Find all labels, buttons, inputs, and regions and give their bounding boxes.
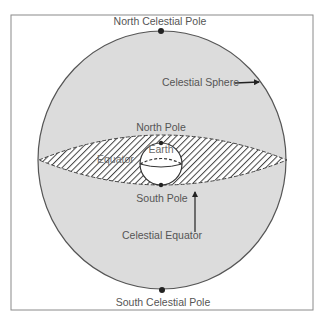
north-celestial-pole-label: North Celestial Pole (114, 15, 207, 27)
south-celestial-pole-dot (159, 287, 165, 293)
south-pole-label: South Pole (136, 192, 188, 204)
equator-label: Equator (97, 153, 134, 165)
celestial-equator-label: Celestial Equator (122, 229, 202, 241)
earth-label: Earth (148, 143, 173, 155)
celestial-sphere-diagram: North Celestial Pole South Celestial Pol… (0, 0, 324, 326)
north-pole-label: North Pole (136, 121, 186, 133)
south-celestial-pole-label: South Celestial Pole (116, 296, 211, 308)
south-pole-dot (159, 183, 163, 187)
celestial-sphere-label: Celestial Sphere (162, 76, 239, 88)
north-celestial-pole-dot (158, 28, 164, 34)
